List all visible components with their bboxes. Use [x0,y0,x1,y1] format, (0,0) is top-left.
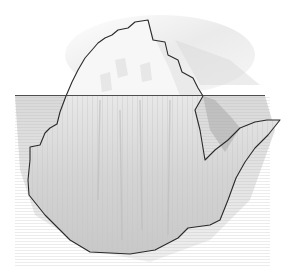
iceberg-illustration [0,0,295,276]
